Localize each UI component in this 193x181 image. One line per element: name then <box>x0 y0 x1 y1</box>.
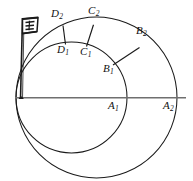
figure-canvas <box>0 0 193 181</box>
flag-banner <box>22 18 38 34</box>
label-A1: A1 <box>108 100 118 111</box>
label-B1: B1 <box>103 63 113 74</box>
label-D1: D1 <box>57 44 69 55</box>
label-D2: D2 <box>51 8 63 19</box>
label-C1: C1 <box>80 46 91 57</box>
segment-D <box>63 26 66 45</box>
geometry-figure: D2 C2 B2 D1 C1 B1 A1 A2 <box>0 0 193 181</box>
label-A2: A2 <box>163 100 173 111</box>
segment-B <box>113 48 140 66</box>
segment-C <box>87 25 94 47</box>
label-B2: B2 <box>136 25 146 36</box>
label-C2: C2 <box>88 5 99 16</box>
